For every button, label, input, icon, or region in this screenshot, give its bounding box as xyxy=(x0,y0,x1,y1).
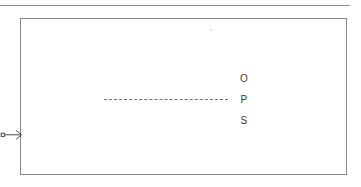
inlet-arrow-icon xyxy=(0,126,26,144)
label-s: S xyxy=(241,110,248,131)
diagram-canvas: O P S xyxy=(0,0,361,187)
label-p: P xyxy=(241,89,248,110)
dashed-centerline xyxy=(104,99,228,100)
label-stack: O P S xyxy=(240,68,248,131)
top-rule-divider xyxy=(0,5,350,6)
boundary-rectangle xyxy=(20,18,347,175)
label-o: O xyxy=(240,68,248,89)
faint-speck-mark xyxy=(210,29,212,31)
